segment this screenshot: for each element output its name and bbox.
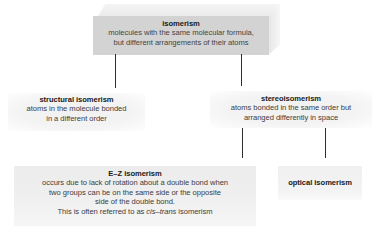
node-structural-desc-1: atoms in the molecule bonded [8, 104, 145, 113]
node-ez-desc-4-prefix: This is often referred to as [57, 207, 146, 216]
node-isomerism-title: isomerism [93, 19, 269, 28]
node-stereo-title: stereoisomerism [210, 94, 372, 103]
node-ez-desc-4-suffix: isomerism [176, 207, 212, 216]
node-stereo-desc-2: arranged differently in space [210, 113, 372, 122]
connector-stereo-ez [242, 128, 243, 158]
node-ez-desc-4-italic: cis–trans [146, 207, 176, 216]
node-ez-desc-2: two groups can be on the same side or th… [14, 188, 256, 197]
connector-stereo-optical [325, 128, 326, 158]
node-ez-isomerism: E–Z isomerism occurs due to lack of rota… [14, 166, 256, 226]
node-isomerism-desc-2: but different arrangements of their atom… [93, 38, 269, 47]
node-structural-desc-2: in a different order [8, 114, 145, 123]
node-optical-title: optical isomerism [278, 178, 362, 187]
node-ez-desc-3: side of the double bond. [14, 197, 256, 206]
connector-root-structural [115, 54, 116, 88]
node-stereoisomerism: stereoisomerism atoms bonded in the same… [210, 91, 372, 128]
node-ez-desc-4: This is often referred to as cis–trans i… [14, 207, 256, 216]
root-box-top-face [98, 4, 279, 16]
node-structural-title: structural isomerism [8, 95, 145, 104]
node-stereo-desc-1: atoms bonded in the same order but [210, 103, 372, 112]
node-structural-isomerism: structural isomerism atoms in the molecu… [8, 93, 145, 131]
node-isomerism: isomerism molecules with the same molecu… [93, 16, 269, 55]
connector-root-stereo [241, 54, 242, 86]
node-isomerism-desc-1: molecules with the same molecular formul… [93, 28, 269, 37]
node-optical-isomerism: optical isomerism [278, 166, 362, 200]
node-ez-desc-1: occurs due to lack of rotation about a d… [14, 178, 256, 187]
node-ez-title: E–Z isomerism [14, 169, 256, 178]
